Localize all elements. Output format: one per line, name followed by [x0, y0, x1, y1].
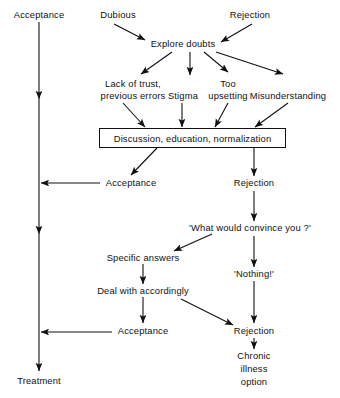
edge-misunderstanding-to-box: [255, 103, 288, 127]
node-rejection-top: Rejection: [230, 9, 270, 21]
node-rejection-low: Rejection: [234, 325, 274, 337]
node-lack-of-trust-line2: previous errors: [101, 90, 166, 102]
node-acceptance-mid: Acceptance: [106, 177, 157, 189]
edge-dubious-to-explore: [114, 24, 145, 40]
edge-box-to-acceptance-mid: [131, 148, 157, 175]
flowchart-connectors: [0, 0, 340, 398]
node-lack-of-trust-line1: Lack of trust,: [105, 78, 161, 90]
node-what-would-convince-you: 'What would convince you ?': [189, 222, 311, 234]
edge-lacktrust-to-box: [123, 103, 145, 127]
node-explore-doubts: Explore doubts: [151, 38, 216, 50]
edge-deal-to-rejection-low: [181, 299, 233, 325]
node-chronic-line3: option: [241, 376, 267, 388]
edge-question-to-specific: [174, 234, 212, 251]
node-nothing: 'Nothing!': [234, 268, 274, 280]
node-too-line1: Too: [220, 78, 236, 90]
node-chronic-line2: illness: [240, 363, 267, 375]
node-deal-with-accordingly: Deal with accordingly: [97, 285, 189, 297]
node-misunderstanding: Misunderstanding: [250, 90, 326, 102]
edge-toupsetting-to-box: [215, 103, 228, 127]
node-rejection-mid: Rejection: [234, 177, 274, 189]
node-specific-answers: Specific answers: [107, 252, 180, 264]
node-discussion-box: Discussion, education, normalization: [99, 128, 286, 148]
node-stigma: Stigma: [168, 90, 198, 102]
flowchart-canvas: Acceptance Dubious Rejection Explore dou…: [0, 0, 340, 398]
edge-explore-to-lacktrust: [141, 52, 172, 74]
node-acceptance-low: Acceptance: [118, 325, 169, 337]
node-chronic-line1: Chronic: [237, 350, 270, 362]
edge-rejection-to-explore: [221, 24, 252, 42]
node-too-line2: upsetting: [208, 90, 247, 102]
node-acceptance-top: Acceptance: [14, 9, 65, 21]
node-dubious: Dubious: [100, 9, 135, 21]
node-treatment: Treatment: [17, 375, 61, 387]
